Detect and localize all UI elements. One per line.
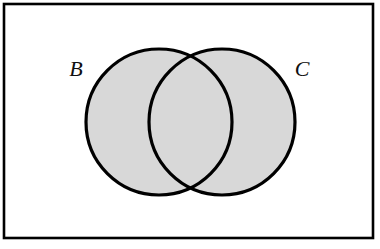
set-label-b: B xyxy=(69,56,82,81)
set-label-c: C xyxy=(295,56,310,81)
venn-diagram-figure: B C xyxy=(0,0,380,249)
venn-diagram-canvas: B C xyxy=(0,0,380,249)
